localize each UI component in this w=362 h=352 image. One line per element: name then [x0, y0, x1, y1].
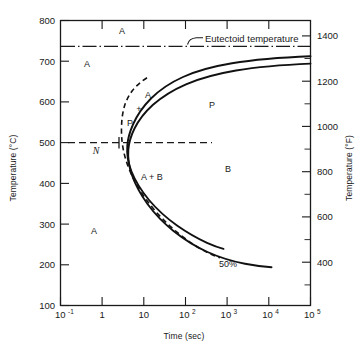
- ytick-label-left-2: 300: [39, 219, 55, 230]
- right-axis-tick-labels: 400 600 800 1000 1200 1400: [317, 30, 338, 267]
- top-axis-ticks: [102, 21, 269, 30]
- label-austenite-plus-pearlite-a: A: [145, 90, 151, 100]
- label-bainite: B: [225, 164, 231, 174]
- curve-transformation-start: [127, 56, 310, 249]
- region-labels: A A A A + P P B A + B: [84, 26, 231, 236]
- svg-text:2: 2: [192, 308, 196, 315]
- label-eutectoid-temperature: Eutectoid temperature: [205, 33, 298, 44]
- xtick-label-3: 10 2: [179, 308, 196, 321]
- ytick-label-right-2: 800: [317, 166, 333, 177]
- svg-text:1: 1: [99, 309, 104, 320]
- bottom-axis-ticks: [61, 297, 311, 306]
- x-axis-title: Time (sec): [124, 331, 244, 341]
- y-axis-title-fahrenheit: Temperature (°F): [344, 108, 354, 228]
- svg-text:10: 10: [262, 309, 273, 320]
- label-nose-point-n: N: [92, 145, 101, 156]
- ytick-label-right-0: 400: [317, 257, 333, 268]
- ytick-label-right-5: 1400: [317, 30, 338, 41]
- label-austenite-plus-bainite: A + B: [141, 172, 163, 182]
- xtick-label-4: 10 3: [221, 308, 238, 321]
- ytick-label-right-4: 1200: [317, 76, 338, 87]
- xtick-label-5: 10 4: [262, 308, 279, 321]
- ytick-label-right-1: 600: [317, 211, 333, 222]
- label-austenite-lower-left: A: [91, 226, 97, 236]
- plot-frame: [61, 21, 311, 306]
- label-austenite-plus-pearlite-plus: +: [136, 104, 141, 114]
- xtick-label-0: 10 -1: [55, 308, 74, 321]
- ytick-label-left-7: 800: [39, 15, 55, 26]
- svg-text:4: 4: [275, 308, 279, 315]
- ytick-label-left-5: 600: [39, 96, 55, 107]
- label-austenite-upper-left: A: [84, 59, 90, 69]
- xtick-label-1: 1: [99, 309, 104, 320]
- ytick-label-right-3: 1000: [317, 121, 338, 132]
- ytick-label-left-3: 400: [39, 178, 55, 189]
- svg-text:10: 10: [304, 309, 315, 320]
- plot-canvas: 100 200 300 400 500 600 700 800: [0, 0, 362, 352]
- ttt-diagram-figure: 100 200 300 400 500 600 700 800: [0, 0, 362, 352]
- xtick-label-6: 10 5: [304, 308, 321, 321]
- label-austenite-plus-pearlite-p: P: [127, 118, 133, 128]
- ytick-label-left-1: 200: [39, 259, 55, 270]
- bottom-axis-tick-labels: 10 -1 1 10 10 2 10 3 10 4 10: [55, 308, 321, 321]
- label-pearlite: P: [209, 100, 215, 110]
- svg-text:10: 10: [221, 309, 232, 320]
- eutectoid-leader-line: [188, 38, 204, 45]
- label-fifty-percent: 50%: [219, 259, 237, 269]
- left-axis-tick-labels: 100 200 300 400 500 600 700 800: [39, 15, 55, 311]
- ytick-label-left-0: 100: [39, 300, 55, 311]
- left-axis-ticks: [61, 21, 70, 306]
- xtick-label-2: 10: [139, 309, 150, 320]
- y-axis-title-celsius: Temperature (°C): [8, 108, 18, 228]
- ytick-label-left-6: 700: [39, 56, 55, 67]
- svg-text:10: 10: [55, 309, 66, 320]
- svg-text:10: 10: [179, 309, 190, 320]
- svg-text:-1: -1: [68, 308, 74, 315]
- label-austenite-above-eutectoid: A: [119, 26, 125, 36]
- svg-text:3: 3: [234, 308, 238, 315]
- svg-text:5: 5: [317, 308, 321, 315]
- svg-text:10: 10: [139, 309, 150, 320]
- ytick-label-left-4: 500: [39, 137, 55, 148]
